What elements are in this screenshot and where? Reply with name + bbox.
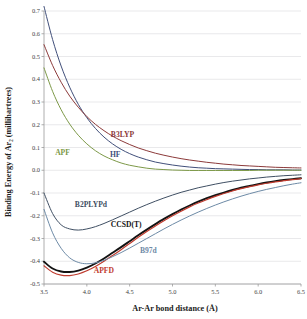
curve-label-b3lyp: B3LYP — [111, 130, 135, 139]
y-axis-tick-label: 0.1 — [32, 144, 40, 151]
chart-container: HFB3LYPAPFB2PLYPdCCSD(T)APFDB97d -0.5-0.… — [0, 0, 307, 319]
y-axis-tick-label: 0.7 — [32, 7, 41, 14]
y-axis-tick-label: -0.2 — [30, 212, 40, 219]
y-axis-tick-label: 0.3 — [32, 98, 40, 105]
y-axis-tick-label: 0.4 — [32, 75, 41, 82]
x-axis-tick-label: 6.5 — [297, 288, 305, 295]
x-axis-tick-label: 4.5 — [126, 288, 134, 295]
curve-b3lyp — [44, 45, 301, 168]
y-axis-tick-label: 0.5 — [32, 53, 40, 60]
curve-labels-group: HFB3LYPAPFB2PLYPdCCSD(T)APFDB97d — [55, 130, 157, 275]
gridlines-group — [44, 11, 301, 284]
curve-label-b97d: B97d — [140, 246, 158, 255]
y-axis-tick-label: 0.0 — [32, 166, 40, 173]
binding-energy-plot: HFB3LYPAPFB2PLYPdCCSD(T)APFDB97d -0.5-0.… — [0, 0, 307, 319]
y-axis-tick-label: -0.1 — [30, 189, 40, 196]
x-axis-tick-label: 5.0 — [169, 288, 177, 295]
curve-label-hf: HF — [110, 150, 121, 159]
x-axis-tick-label: 4.0 — [83, 288, 91, 295]
curve-label-apfd: APFD — [94, 266, 115, 275]
curve-hf — [44, 6, 301, 170]
y-axis-tick-label: 0.6 — [32, 30, 40, 37]
y-axis-tick-label: 0.2 — [32, 121, 40, 128]
curve-ccsdt — [44, 178, 301, 272]
x-axis-tick-label: 6.0 — [254, 288, 262, 295]
x-axis-tick-label: 3.5 — [40, 288, 48, 295]
y-axis-tick-label: -0.5 — [30, 280, 40, 287]
y-axis-title: Binding Energy of Ar₂ (millihartrees) — [4, 87, 13, 217]
curves-group — [44, 6, 301, 275]
y-axis-tick-label: -0.3 — [30, 235, 40, 242]
x-axis-title: Ar-Ar bond distance (Å) — [132, 304, 218, 313]
tick-labels-group: -0.5-0.4-0.3-0.2-0.10.00.10.20.30.40.50.… — [30, 7, 305, 295]
x-axis-tick-label: 5.5 — [211, 288, 219, 295]
y-axis-tick-label: -0.4 — [30, 257, 41, 264]
curve-label-apf: APF — [55, 148, 70, 157]
axes-group — [42, 11, 302, 287]
curve-label-ccsdt: CCSD(T) — [111, 220, 142, 229]
curve-label-b2plypd: B2PLYPd — [75, 200, 108, 209]
curve-apf — [44, 68, 301, 171]
